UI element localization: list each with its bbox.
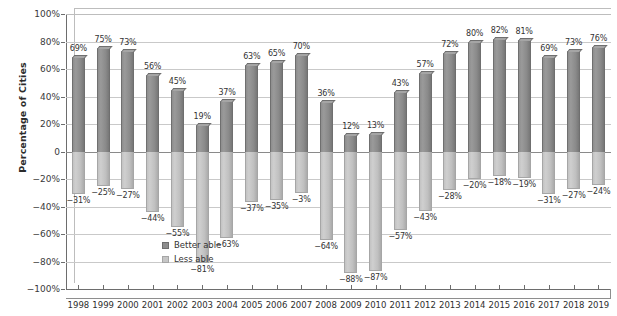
bar-less-able[interactable] — [320, 152, 333, 240]
bar-group[interactable]: 76%−24% — [586, 14, 611, 289]
x-axis-tick-mark — [177, 285, 178, 290]
legend-label-better-able: Better able — [174, 239, 221, 251]
bar-value-label-less-able: −24% — [587, 187, 611, 196]
x-axis-tick-label: 2013 — [437, 300, 462, 310]
y-axis-tick-label: 80% — [40, 37, 60, 47]
bar-group[interactable]: 80%−20% — [462, 14, 487, 289]
bar-better-able[interactable] — [394, 92, 407, 151]
bar-group[interactable]: 72%−28% — [437, 14, 462, 289]
bar-better-able[interactable] — [146, 75, 159, 152]
x-axis-tick-label: 2008 — [314, 300, 339, 310]
bar-value-label-better-able: 43% — [392, 79, 409, 88]
bar-better-able[interactable] — [592, 47, 605, 152]
bar-group[interactable]: 63%−37% — [239, 14, 264, 289]
bar-value-label-better-able: 81% — [516, 27, 533, 36]
bar-less-able[interactable] — [468, 152, 481, 180]
bar-less-able[interactable] — [592, 152, 605, 185]
y-axis-tick-mark — [61, 42, 65, 43]
bar-group[interactable]: 82%−18% — [487, 14, 512, 289]
bar-less-able[interactable] — [567, 152, 580, 189]
x-axis-tick-mark — [202, 285, 203, 290]
bar-better-able[interactable] — [196, 125, 209, 151]
bar-better-able[interactable] — [344, 135, 357, 152]
x-axis-tick-mark — [351, 285, 352, 290]
bar-group[interactable]: 43%−57% — [388, 14, 413, 289]
bar-better-able[interactable] — [245, 65, 258, 152]
x-axis-tick-label: 2001 — [140, 300, 165, 310]
bar-value-label-less-able: −25% — [91, 188, 115, 197]
bar-better-able[interactable] — [567, 51, 580, 151]
bar-less-able[interactable] — [220, 152, 233, 239]
bar-better-able[interactable] — [97, 48, 110, 151]
bar-group[interactable]: 81%−19% — [512, 14, 537, 289]
bar-less-able[interactable] — [344, 152, 357, 273]
bar-better-able[interactable] — [419, 73, 432, 151]
bar-value-label-less-able: −27% — [116, 191, 140, 200]
bar-group[interactable]: 36%−64% — [314, 14, 339, 289]
bar-less-able[interactable] — [72, 152, 85, 195]
legend-swatch-less-able — [162, 256, 169, 263]
bar-value-label-less-able: −31% — [67, 196, 91, 205]
x-axis-tick: 2016 — [512, 289, 537, 310]
bar-less-able[interactable] — [146, 152, 159, 213]
bar-series-layer: 69%−31%75%−25%73%−27%56%−44%45%−55%19%−8… — [66, 14, 611, 289]
bar-value-label-less-able: −20% — [463, 181, 487, 190]
bar-better-able[interactable] — [171, 90, 184, 152]
x-axis-tick: 2003 — [190, 289, 215, 310]
bar-better-able[interactable] — [320, 102, 333, 152]
bar-group[interactable]: 75%−25% — [91, 14, 116, 289]
bar-group[interactable]: 57%−43% — [413, 14, 438, 289]
bar-less-able[interactable] — [171, 152, 184, 228]
bar-less-able[interactable] — [518, 152, 531, 178]
bar-better-able[interactable] — [493, 39, 506, 152]
bar-less-able[interactable] — [270, 152, 283, 200]
bar-less-able[interactable] — [245, 152, 258, 203]
bar-less-able[interactable] — [369, 152, 382, 272]
bar-less-able[interactable] — [394, 152, 407, 230]
bar-group[interactable]: 13%−87% — [363, 14, 388, 289]
bar-better-able[interactable] — [220, 101, 233, 152]
x-axis-tick-mark — [301, 285, 302, 290]
bar-less-able[interactable] — [542, 152, 555, 195]
bar-better-able[interactable] — [542, 57, 555, 152]
bar-better-able[interactable] — [270, 62, 283, 151]
bar-group[interactable]: 69%−31% — [66, 14, 91, 289]
bar-less-able[interactable] — [443, 152, 456, 191]
bar-group[interactable]: 73%−27% — [561, 14, 586, 289]
x-axis-tick-label: 2002 — [165, 300, 190, 310]
bar-group[interactable]: 69%−31% — [537, 14, 562, 289]
bar-group[interactable]: 65%−35% — [264, 14, 289, 289]
x-axis-tick: 2000 — [116, 289, 141, 310]
bar-better-able[interactable] — [369, 134, 382, 152]
bar-value-label-less-able: −3% — [292, 195, 311, 204]
bar-value-label-less-able: −88% — [339, 275, 363, 284]
x-axis-tick-mark — [450, 285, 451, 290]
x-axis-tick-label: 2014 — [462, 300, 487, 310]
bar-better-able[interactable] — [72, 57, 85, 152]
bar-better-able[interactable] — [443, 53, 456, 152]
bar-chart: Percentage of Cities 100%80%60%40%20%0−2… — [0, 0, 617, 316]
x-axis-ticks: 1998199920002001200220032004200520062007… — [66, 289, 611, 310]
bar-less-able[interactable] — [121, 152, 134, 189]
bar-less-able[interactable] — [97, 152, 110, 186]
bar-better-able[interactable] — [121, 51, 134, 151]
bar-group[interactable]: 70%−3% — [289, 14, 314, 289]
x-axis-tick-label: 2012 — [413, 300, 438, 310]
bar-better-able[interactable] — [468, 42, 481, 152]
x-axis-tick-mark — [326, 285, 327, 290]
x-axis-tick-mark — [78, 285, 79, 290]
bar-group[interactable]: 73%−27% — [116, 14, 141, 289]
bar-value-label-better-able: 57% — [417, 60, 434, 69]
bar-value-label-less-able: −18% — [488, 178, 512, 187]
bar-value-label-less-able: −35% — [265, 202, 289, 211]
bar-less-able[interactable] — [295, 152, 308, 193]
bar-better-able[interactable] — [518, 40, 531, 151]
bar-group[interactable]: 12%−88% — [338, 14, 363, 289]
x-axis-tick: 2018 — [561, 289, 586, 310]
bar-better-able[interactable] — [295, 55, 308, 151]
x-axis-tick-label: 2010 — [363, 300, 388, 310]
x-axis-tick: 2017 — [537, 289, 562, 310]
bar-less-able[interactable] — [493, 152, 506, 177]
bar-less-able[interactable] — [419, 152, 432, 211]
x-axis-tick-label: 2011 — [388, 300, 413, 310]
